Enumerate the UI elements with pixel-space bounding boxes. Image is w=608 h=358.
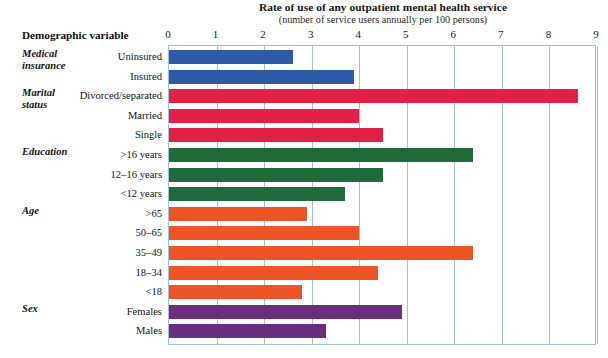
bar-9	[169, 226, 359, 240]
x-tick-7: 7	[498, 28, 504, 40]
chart-subtitle: (number of service users annually per 10…	[168, 14, 598, 26]
x-tick-9: 9	[593, 28, 599, 40]
bar-8	[169, 207, 307, 221]
bar-4	[169, 128, 383, 142]
category-label-5: >16 years	[120, 149, 162, 160]
bar-10	[169, 246, 473, 260]
category-label-0: Uninsured	[118, 51, 162, 62]
gridline-9	[597, 46, 598, 344]
bar-11	[169, 266, 378, 280]
category-label-11: 18–34	[136, 267, 162, 278]
bar-2	[169, 89, 578, 103]
x-tick-5: 5	[403, 28, 409, 40]
bar-3	[169, 109, 359, 123]
bar-1	[169, 70, 354, 84]
category-label-3: Married	[128, 110, 162, 121]
category-label-13: Females	[127, 306, 162, 317]
category-label-14: Males	[136, 325, 162, 336]
x-tick-2: 2	[260, 28, 266, 40]
category-label-10: 35–49	[136, 247, 162, 258]
category-label-2: Divorced/separated	[80, 90, 162, 101]
chart-title-block: Rate of use of any outpatient mental hea…	[168, 1, 598, 26]
group-label-education: Education	[22, 146, 67, 158]
x-tick-4: 4	[355, 28, 361, 40]
x-tick-1: 1	[213, 28, 219, 40]
category-label-1: Insured	[130, 71, 162, 82]
category-label-12: <18	[145, 286, 162, 297]
bar-5	[169, 148, 473, 162]
chart-figure: Rate of use of any outpatient mental hea…	[0, 0, 608, 358]
bar-6	[169, 168, 383, 182]
x-tick-0: 0	[165, 28, 171, 40]
category-label-7: <12 years	[120, 188, 162, 199]
category-label-9: 50–65	[136, 227, 162, 238]
category-label-4: Single	[135, 129, 162, 140]
group-label-age: Age	[22, 205, 39, 217]
category-label-8: >65	[145, 208, 162, 219]
bar-12	[169, 285, 302, 299]
x-tick-8: 8	[546, 28, 552, 40]
bar-13	[169, 305, 402, 319]
bar-0	[169, 50, 293, 64]
bar-14	[169, 324, 326, 338]
group-label-marital-status: Marital status	[22, 87, 55, 110]
x-axis-tick-labels: 0123456789	[0, 28, 608, 45]
group-label-medical-insurance: Medical insurance	[22, 48, 66, 71]
category-label-6: 12–16 years	[111, 169, 162, 180]
x-tick-3: 3	[308, 28, 314, 40]
chart-title: Rate of use of any outpatient mental hea…	[168, 1, 598, 14]
x-tick-6: 6	[451, 28, 457, 40]
bar-7	[169, 187, 345, 201]
group-label-sex: Sex	[22, 303, 38, 315]
